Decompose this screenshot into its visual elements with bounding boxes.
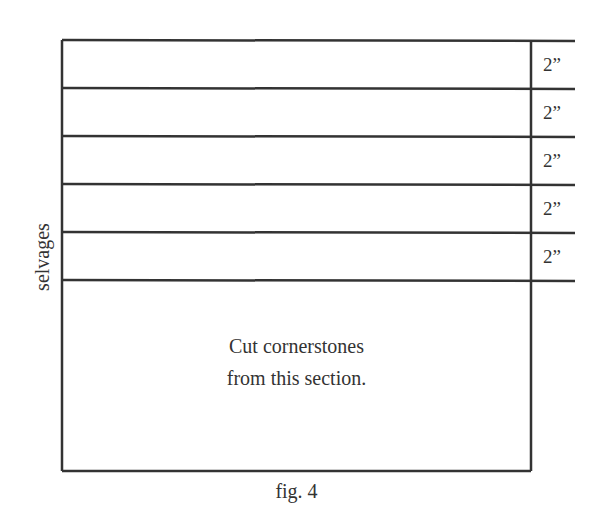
cut-line-1 [62,40,575,41]
cut-line-5 [62,232,575,233]
strip-width-label: 2” [543,54,561,76]
strip-width-label: 2” [543,198,561,220]
cut-line-2 [62,88,575,89]
section-instruction-line-2: from this section. [62,362,531,394]
cut-line-3 [62,136,575,137]
strip-width-label: 2” [543,102,561,124]
cut-line-4 [62,184,575,185]
section-instruction-line-1: Cut cornerstones [62,330,531,362]
strip-width-label: 2” [543,150,561,172]
figure-caption: fig. 4 [62,480,531,503]
section-instruction: Cut cornerstones from this section. [62,330,531,394]
fabric-diagram [0,0,608,508]
cut-line-6 [62,280,575,281]
selvages-label: selvages [31,223,54,291]
strip-width-label: 2” [543,246,561,268]
